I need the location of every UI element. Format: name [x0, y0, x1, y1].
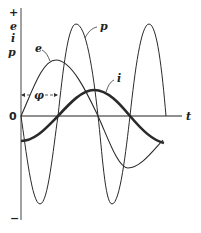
e-leader: [42, 50, 50, 61]
phi-arrowhead-right: [54, 93, 58, 97]
p-leader: [85, 27, 97, 38]
p-curve: [21, 24, 166, 204]
ac-power-diagram: + e i p 0 − t φ e p i: [0, 0, 201, 233]
p-curve-label: p: [100, 20, 108, 33]
t-axis-label: t: [186, 110, 191, 123]
y-label-i: i: [11, 32, 15, 45]
origin-label: 0: [9, 110, 17, 123]
i-leader: [106, 80, 114, 92]
y-label-p: p: [8, 46, 16, 59]
phi-label: φ: [34, 89, 44, 102]
e-curve-label: e: [35, 42, 42, 55]
i-curve-label: i: [117, 72, 121, 85]
y-minus-sign: −: [10, 212, 19, 225]
y-plus-sign: +: [9, 6, 18, 19]
e-curve: [21, 60, 163, 168]
phi-arrowhead-left: [21, 93, 25, 97]
